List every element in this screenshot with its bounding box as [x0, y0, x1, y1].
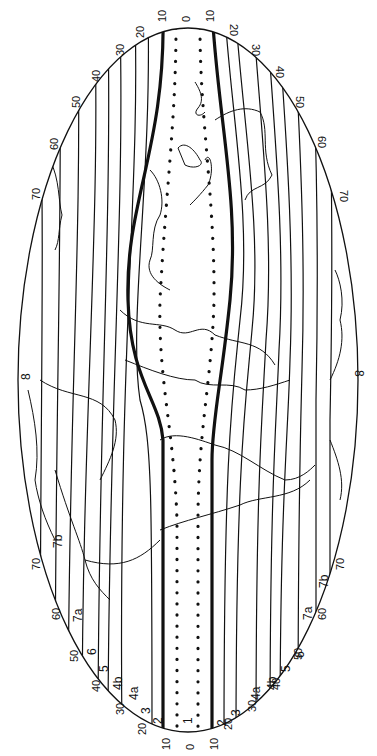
svg-text:10: 10 [156, 10, 168, 22]
svg-text:10: 10 [208, 738, 220, 750]
svg-text:0: 0 [184, 744, 196, 750]
svg-text:40: 40 [274, 66, 286, 78]
svg-text:40: 40 [90, 70, 102, 82]
svg-text:7b: 7b [51, 534, 65, 548]
latitude-labels-top-right: 20 30 40 50 60 70 [228, 24, 350, 202]
svg-text:70: 70 [334, 558, 346, 570]
zone-8-right-label: 8 [352, 370, 366, 377]
svg-text:7a: 7a [301, 606, 315, 620]
svg-text:20: 20 [228, 24, 240, 36]
svg-text:30: 30 [114, 44, 126, 56]
svg-text:70: 70 [338, 190, 350, 202]
svg-text:0: 0 [180, 16, 192, 22]
svg-text:5: 5 [97, 665, 111, 672]
svg-text:2: 2 [215, 719, 229, 726]
svg-text:70: 70 [30, 558, 42, 570]
svg-text:4a: 4a [249, 686, 263, 700]
svg-text:30: 30 [114, 703, 126, 715]
svg-text:60: 60 [48, 138, 60, 150]
svg-text:50: 50 [68, 650, 80, 662]
latitude-labels-bottom-left: 20 30 40 50 60 70 [30, 558, 148, 735]
svg-text:4b: 4b [265, 676, 279, 690]
climate-zone-map: 10 0 10 20 30 40 50 60 70 20 30 40 50 60… [0, 0, 377, 756]
svg-text:3: 3 [139, 707, 153, 714]
svg-text:10: 10 [160, 738, 172, 750]
svg-text:6: 6 [293, 651, 307, 658]
svg-text:20: 20 [134, 26, 146, 38]
zone-1-label: 1 [181, 717, 195, 724]
latitude-labels-top-left: 20 30 40 50 60 70 [30, 26, 146, 200]
svg-text:2: 2 [151, 717, 165, 724]
svg-text:4b: 4b [111, 676, 125, 690]
svg-text:3: 3 [229, 709, 243, 716]
svg-text:30: 30 [246, 700, 258, 712]
zone-lines [40, 10, 332, 740]
svg-text:4a: 4a [127, 686, 141, 700]
latitude-labels-bottom: 10 0 10 [160, 738, 220, 750]
zone-labels-bottom-right: 2 3 4a 4b 5 6 7a 7b [215, 574, 331, 726]
svg-text:10: 10 [204, 10, 216, 22]
zone-8-left-label: 8 [19, 373, 33, 380]
svg-text:7b: 7b [317, 574, 331, 588]
svg-text:7a: 7a [71, 608, 85, 622]
svg-text:50: 50 [294, 96, 306, 108]
svg-text:20: 20 [136, 723, 148, 735]
svg-text:70: 70 [30, 188, 42, 200]
svg-text:60: 60 [50, 608, 62, 620]
svg-text:40: 40 [90, 680, 102, 692]
svg-text:30: 30 [250, 44, 262, 56]
svg-text:50: 50 [70, 96, 82, 108]
svg-text:60: 60 [316, 608, 328, 620]
svg-text:5: 5 [279, 665, 293, 672]
svg-text:60: 60 [316, 136, 328, 148]
svg-text:6: 6 [85, 648, 99, 655]
latitude-labels-top: 10 0 10 [156, 10, 216, 22]
